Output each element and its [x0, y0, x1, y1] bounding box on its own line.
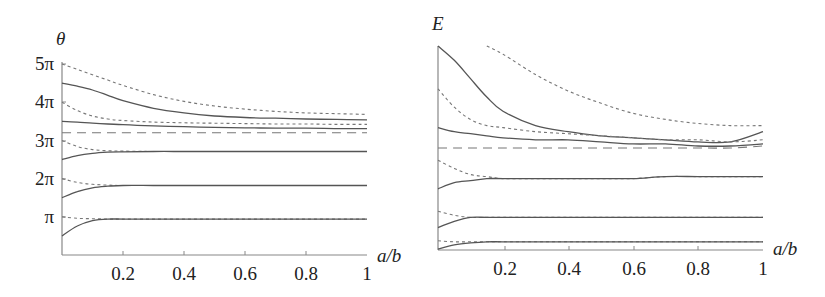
- svg-text:0.2: 0.2: [111, 263, 135, 284]
- curve-dashed-3: [62, 140, 367, 151]
- svg-text:0.6: 0.6: [233, 263, 257, 284]
- curve-solid-4: [62, 185, 367, 197]
- svg-text:0.6: 0.6: [622, 258, 646, 279]
- right-x-ticks: 0.2 0.4 0.6 0.8 1: [493, 246, 768, 279]
- left-y-ticks: π 2π 3π 4π 5π: [35, 53, 66, 227]
- curve-solid-2: [438, 128, 763, 147]
- left-x-ticks: 0.2 0.4 0.6 0.8 1: [111, 251, 372, 284]
- right-plot: E 0.2 0.4 0.6 0.8 1 a/b: [431, 13, 797, 279]
- svg-text:0.8: 0.8: [294, 263, 318, 284]
- curve-dashed-4: [438, 211, 763, 217]
- curve-solid-1: [438, 46, 763, 143]
- right-x-axis-label: a/b: [773, 238, 797, 259]
- curve-solid-2: [62, 121, 367, 128]
- left-plot: θ π 2π 3π 4π 5π 0.2 0.4 0.6 0.8 1 a/b: [35, 28, 401, 284]
- y-tick-pi: π: [44, 206, 54, 227]
- right-curves: [438, 46, 763, 249]
- svg-text:1: 1: [758, 258, 768, 279]
- curve-solid-5: [438, 242, 763, 249]
- curve-solid-3: [438, 176, 763, 188]
- svg-text:0.8: 0.8: [686, 258, 710, 279]
- figure: θ π 2π 3π 4π 5π 0.2 0.4 0.6 0.8 1 a/b: [0, 0, 825, 297]
- curve-dashed-4: [62, 179, 367, 186]
- left-curves: [62, 64, 367, 236]
- curve-dashed-1: [62, 64, 367, 114]
- right-y-axis-label: E: [431, 13, 444, 34]
- curve-solid-5: [62, 219, 367, 236]
- y-tick-2pi: 2π: [35, 168, 55, 189]
- svg-text:0.4: 0.4: [557, 258, 581, 279]
- left-y-axis-label: θ: [56, 28, 65, 49]
- y-tick-5pi: 5π: [35, 53, 55, 74]
- left-x-axis-label: a/b: [377, 245, 401, 266]
- y-tick-4pi: 4π: [35, 91, 55, 112]
- svg-text:0.2: 0.2: [493, 258, 517, 279]
- curve-solid-3: [62, 151, 367, 159]
- curve-solid-4: [438, 217, 763, 228]
- svg-text:0.4: 0.4: [172, 263, 196, 284]
- svg-text:1: 1: [362, 263, 372, 284]
- curve-dashed-1: [487, 46, 763, 126]
- curve-solid-1: [62, 83, 367, 120]
- y-tick-3pi: 3π: [35, 130, 55, 151]
